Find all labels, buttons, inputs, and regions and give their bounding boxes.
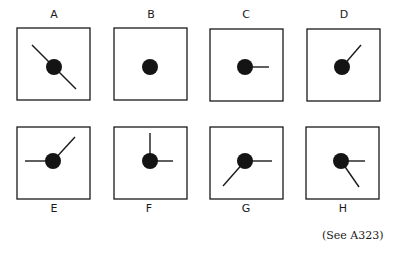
panel-b	[114, 28, 187, 100]
panel-label-d: D	[334, 9, 354, 21]
panel-d	[307, 29, 380, 101]
center-dot	[237, 59, 253, 75]
panel-h	[306, 127, 379, 199]
center-dot	[333, 153, 349, 169]
panel-label-c: C	[236, 9, 256, 21]
panel-label-b: B	[141, 9, 161, 21]
center-dot	[46, 59, 62, 75]
panel-label-g: G	[236, 203, 256, 215]
figure: A B C D E F G H (See A323)	[0, 0, 397, 253]
panel-f	[114, 127, 187, 199]
center-dot	[142, 59, 158, 75]
center-dot	[142, 153, 158, 169]
center-dot	[45, 153, 61, 169]
panel-e	[17, 127, 90, 199]
panel-c	[210, 29, 283, 101]
panel-label-e: E	[44, 203, 64, 215]
panel-label-h: H	[333, 203, 353, 215]
center-dot	[334, 59, 350, 75]
panel-label-a: A	[44, 9, 64, 21]
center-dot	[237, 153, 253, 169]
panel-g	[210, 127, 283, 199]
panel-label-f: F	[139, 203, 159, 215]
panel-a	[17, 28, 90, 100]
caption-reference: (See A323)	[322, 229, 384, 242]
panels-svg	[0, 0, 397, 253]
